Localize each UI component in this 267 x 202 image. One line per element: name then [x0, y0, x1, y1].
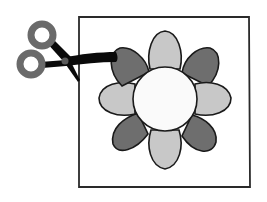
- flower-center: [133, 67, 197, 131]
- illustration-canvas: [0, 0, 267, 202]
- flower: [99, 31, 231, 169]
- scissor-pivot: [62, 58, 69, 65]
